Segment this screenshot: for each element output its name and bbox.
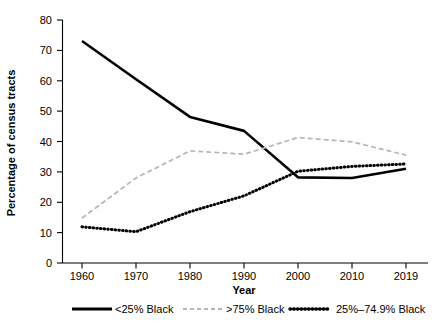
legend-label: >75% Black [226, 303, 285, 315]
legend-label: <25% Black [115, 303, 174, 315]
legend-label: 25%–74.9% Black [336, 303, 426, 315]
x-axis-tick-labels: 1960 1970 1980 1990 2000 2010 2019 [70, 270, 418, 282]
x-tick-label: 2000 [286, 270, 310, 282]
x-tick-label: 1990 [232, 270, 256, 282]
legend-item-gt75: >75% Black [183, 303, 285, 315]
x-axis-ticks [82, 263, 406, 269]
y-tick-label: 70 [40, 44, 52, 56]
chart-legend: <25% Black >75% Black 25%–74.9% Black [72, 303, 426, 315]
legend-item-mid: 25%–74.9% Black [290, 303, 426, 315]
y-tick-label: 10 [40, 227, 52, 239]
x-axis-title: Year [232, 284, 256, 296]
x-tick-label: 1980 [178, 270, 202, 282]
y-axis-title: Percentage of census tracts [5, 70, 17, 217]
x-tick-label: 1960 [70, 270, 94, 282]
y-tick-label: 40 [40, 136, 52, 148]
y-tick-label: 0 [46, 257, 52, 269]
series-line [82, 164, 406, 232]
series-line [82, 41, 406, 178]
y-axis-tick-labels: 80 70 60 50 40 30 20 10 0 [40, 14, 52, 269]
data-series-layer [82, 41, 406, 232]
legend-item-lt25: <25% Black [72, 303, 174, 315]
chart-container: Percentage of census tracts 80 70 60 50 … [0, 0, 436, 325]
y-tick-label: 80 [40, 14, 52, 26]
line-chart: Percentage of census tracts 80 70 60 50 … [0, 0, 436, 325]
y-axis-ticks [57, 20, 63, 263]
x-tick-label: 2019 [394, 270, 418, 282]
y-tick-label: 20 [40, 196, 52, 208]
y-tick-label: 50 [40, 105, 52, 117]
y-tick-label: 30 [40, 166, 52, 178]
x-tick-label: 2010 [340, 270, 364, 282]
x-tick-label: 1970 [124, 270, 148, 282]
y-tick-label: 60 [40, 75, 52, 87]
